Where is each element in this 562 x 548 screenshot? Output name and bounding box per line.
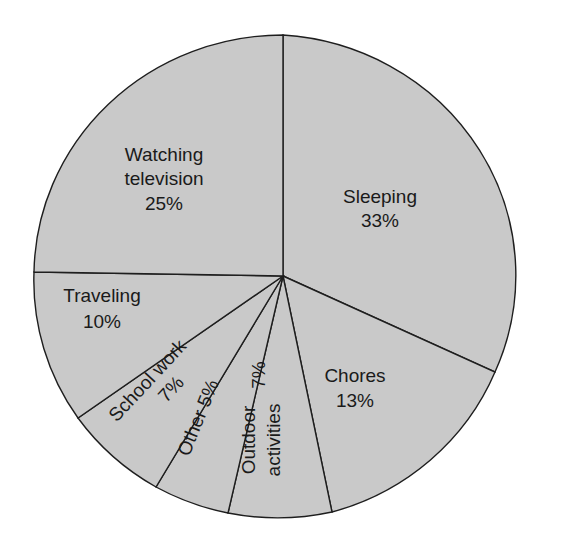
label-tv-pct: 25%: [145, 193, 183, 214]
label-outdoor-pct: 7%: [248, 361, 269, 389]
label-traveling-pct: 10%: [83, 311, 121, 332]
label-sleeping-pct: 33%: [361, 210, 399, 231]
label-tv-line1: Watching: [125, 144, 204, 165]
pie-chart: Watching television 25% Sleeping 33% Tra…: [0, 0, 562, 548]
label-traveling-name: Traveling: [63, 285, 140, 306]
label-chores-pct: 13%: [336, 390, 374, 411]
label-chores-name: Chores: [324, 365, 385, 386]
label-outdoor-line2: activities: [263, 404, 284, 477]
label-tv-line2: television: [124, 168, 203, 189]
label-outdoor-line1: Outdoor: [238, 405, 259, 474]
label-sleeping-name: Sleeping: [343, 186, 417, 207]
